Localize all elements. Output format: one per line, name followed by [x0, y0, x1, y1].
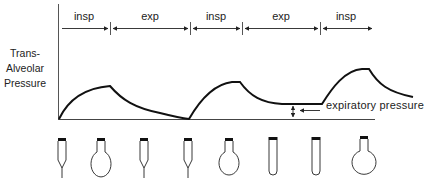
- alveolus-inflated-large-icon: [352, 136, 376, 174]
- alveolus-collapsed-icon: [184, 138, 192, 178]
- pressure-curve: [59, 69, 413, 119]
- diagram-graphics: [0, 0, 433, 185]
- alveolus-inflated-small-icon: [219, 138, 239, 175]
- alveolus-collapsed-icon: [58, 138, 66, 178]
- alveolus-inflated-small-icon: [91, 138, 111, 177]
- alveolus-tube-icon: [269, 137, 278, 175]
- alveolus-collapsed-icon: [140, 138, 148, 178]
- pressure-diagram: Trans- Alveolar Pressure insp exp insp e…: [0, 0, 433, 185]
- alveolus-tube-icon: [312, 137, 321, 175]
